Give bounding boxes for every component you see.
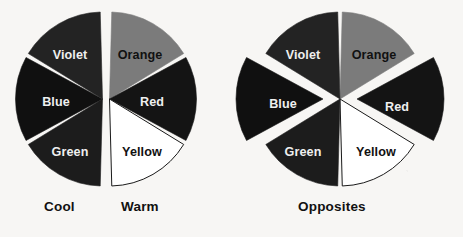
pie-slice-label-green: Green xyxy=(52,145,89,159)
caption-cool: Cool xyxy=(44,199,75,214)
pie-slice-label-violet: Violet xyxy=(286,48,321,62)
pie-slice-label-yellow: Yellow xyxy=(122,145,162,159)
pie-slice-label-red: Red xyxy=(140,95,164,109)
pie-chart-cool-warm-wheel: OrangeRedYellowGreenBlueViolet xyxy=(15,12,196,186)
figure-canvas: OrangeRedYellowGreenBlueVioletOrangeRedY… xyxy=(0,0,463,237)
pie-slice-label-orange: Orange xyxy=(352,48,397,62)
pie-slice-label-violet: Violet xyxy=(53,48,88,62)
caption-opposites: Opposites xyxy=(298,199,366,214)
pie-slice-label-yellow: Yellow xyxy=(356,145,396,159)
pie-slice-label-orange: Orange xyxy=(118,48,163,62)
pie-slice-label-red: Red xyxy=(385,100,409,114)
pie-slice-label-blue: Blue xyxy=(269,97,297,111)
pie-slice-label-blue: Blue xyxy=(42,95,70,109)
pie-slice-label-green: Green xyxy=(285,145,322,159)
pie-chart-opposites-wheel: OrangeRedYellowGreenBlueViolet xyxy=(236,12,444,186)
caption-warm: Warm xyxy=(121,199,159,214)
